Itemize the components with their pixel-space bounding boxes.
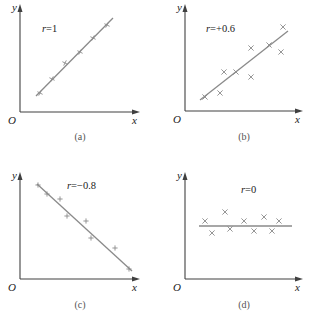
panel-caption: (b) xyxy=(238,131,250,143)
y-arrow-icon xyxy=(183,4,188,12)
data-point-marker xyxy=(227,226,232,231)
correlation-coefficient-label: r=+0.6 xyxy=(206,23,235,34)
data-point-marker xyxy=(233,69,238,74)
panel-caption: (c) xyxy=(74,299,85,311)
y-arrow-icon xyxy=(18,172,23,180)
x-axis-label: x xyxy=(131,281,137,293)
origin-label: O xyxy=(173,281,181,293)
y-axis-label: y xyxy=(176,1,182,13)
data-point-marker xyxy=(88,235,93,240)
data-point-marker xyxy=(269,228,274,233)
data-point-marker xyxy=(278,49,283,54)
x-axis-label: x xyxy=(131,114,137,126)
panel-b: Oxyr=+0.6(b) xyxy=(173,1,303,143)
data-point-marker xyxy=(241,218,246,223)
data-point-marker xyxy=(248,74,253,79)
x-axis-label: x xyxy=(294,113,300,125)
origin-label: O xyxy=(8,281,16,293)
origin-label: O xyxy=(8,114,16,126)
data-point-marker xyxy=(64,213,69,218)
data-point-marker xyxy=(221,69,226,74)
correlation-coefficient-label: r=0 xyxy=(241,184,256,195)
panel-d: Oxyr=0(d) xyxy=(173,169,303,311)
data-point-marker xyxy=(112,245,117,250)
data-point-marker xyxy=(57,196,62,201)
regression-line xyxy=(200,31,288,100)
y-axis-label: y xyxy=(176,169,182,181)
correlation-coefficient-label: r=1 xyxy=(42,23,57,34)
data-point-marker xyxy=(209,230,214,235)
panel-caption: (a) xyxy=(74,131,85,143)
y-arrow-icon xyxy=(183,172,188,180)
y-axis-label: y xyxy=(11,1,17,13)
correlation-coefficient-label: r=−0.8 xyxy=(67,180,96,191)
origin-label: O xyxy=(173,113,181,125)
correlation-diagram: Oxyr=1(a)Oxyr=+0.6(b)Oxyr=−0.8(c)Oxyr=0(… xyxy=(0,0,309,319)
panel-c: Oxyr=−0.8(c) xyxy=(8,169,140,311)
data-point-marker xyxy=(217,90,222,95)
data-point-marker xyxy=(83,218,88,223)
data-point-marker xyxy=(202,218,207,223)
data-point-marker xyxy=(261,214,266,219)
panel-a: Oxyr=1(a) xyxy=(8,1,140,143)
y-axis-label: y xyxy=(11,169,17,181)
data-point-marker xyxy=(280,24,285,29)
data-point-marker xyxy=(222,209,227,214)
data-point-marker xyxy=(251,228,256,233)
data-point-marker xyxy=(276,218,281,223)
data-point-marker xyxy=(248,45,253,50)
y-arrow-icon xyxy=(18,4,23,12)
x-axis-label: x xyxy=(294,281,300,293)
regression-line xyxy=(37,184,132,271)
panel-caption: (d) xyxy=(238,299,250,311)
